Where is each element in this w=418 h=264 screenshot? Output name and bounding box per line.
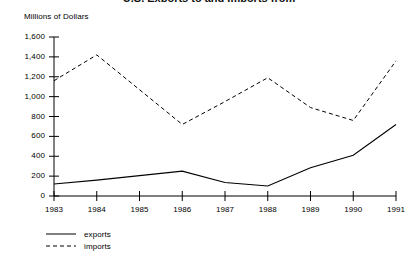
axes-group xyxy=(49,37,396,201)
x-tick-label: 1984 xyxy=(80,205,114,214)
plot-area xyxy=(0,0,418,264)
legend-label: imports xyxy=(84,242,111,251)
series-group xyxy=(54,55,396,186)
x-tick-label: 1986 xyxy=(165,205,199,214)
legend-item-imports[interactable]: imports xyxy=(46,240,111,252)
y-tick-label: 1,400 xyxy=(11,52,45,61)
y-tick-label: 200 xyxy=(11,171,45,180)
legend-swatch-solid-icon xyxy=(46,230,76,238)
legend-item-exports[interactable]: exports xyxy=(46,228,111,240)
y-tick-label: 400 xyxy=(11,151,45,160)
x-tick-label: 1985 xyxy=(123,205,157,214)
x-tick-label: 1987 xyxy=(208,205,242,214)
y-tick-label: 1,600 xyxy=(11,32,45,41)
legend-swatch-dashed-icon xyxy=(46,242,76,250)
y-tick-label: 0 xyxy=(11,191,45,200)
y-tick-label: 600 xyxy=(11,131,45,140)
x-tick-label: 1991 xyxy=(379,205,413,214)
x-tick-label: 1988 xyxy=(251,205,285,214)
series-line-imports xyxy=(54,55,396,125)
line-chart-figure: U.S. Exports to and Imports from Million… xyxy=(0,0,418,264)
legend-label: exports xyxy=(84,230,111,239)
chart-legend: exportsimports xyxy=(46,228,111,252)
x-tick-label: 1990 xyxy=(336,205,370,214)
x-tick-label: 1983 xyxy=(37,205,71,214)
series-line-exports xyxy=(54,124,396,186)
y-tick-label: 1,200 xyxy=(11,72,45,81)
x-tick-label: 1989 xyxy=(294,205,328,214)
y-tick-label: 1,000 xyxy=(11,92,45,101)
y-tick-label: 800 xyxy=(11,112,45,121)
